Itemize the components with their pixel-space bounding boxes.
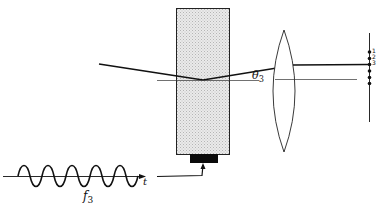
acousto-optic-crystal	[177, 9, 230, 155]
feed-arrow-icon	[201, 163, 206, 169]
focused-beam	[293, 65, 369, 66]
angle-label: θ3	[252, 70, 264, 83]
spot-label-3: 3	[372, 60, 376, 66]
lens	[273, 30, 295, 152]
transducer	[190, 154, 218, 163]
rf-signal-wave	[18, 166, 138, 187]
time-axis-label: t	[143, 177, 147, 187]
frequency-label: f3	[83, 190, 93, 205]
signal-feed-line	[157, 165, 203, 177]
